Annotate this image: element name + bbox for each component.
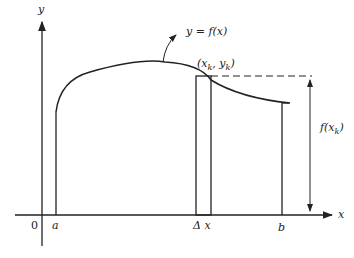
riemann-sum-diagram: y x 0 a b Δ x y = f(x) (xk, yk) f(xk)	[0, 0, 354, 258]
curve-f	[56, 61, 290, 112]
point-label: (xk, yk)	[197, 57, 235, 72]
height-label: f(xk)	[320, 121, 344, 136]
rectangle-strip	[196, 76, 211, 215]
x-axis-label: x	[338, 208, 344, 221]
y-axis-label: y	[38, 3, 44, 16]
delta-x-label: Δ x	[193, 219, 211, 232]
b-label: b	[278, 221, 285, 234]
curve-label: y = f(x)	[186, 25, 227, 38]
curve-label-arrow	[163, 35, 176, 62]
a-label: a	[52, 219, 59, 232]
origin-label: 0	[31, 219, 38, 232]
